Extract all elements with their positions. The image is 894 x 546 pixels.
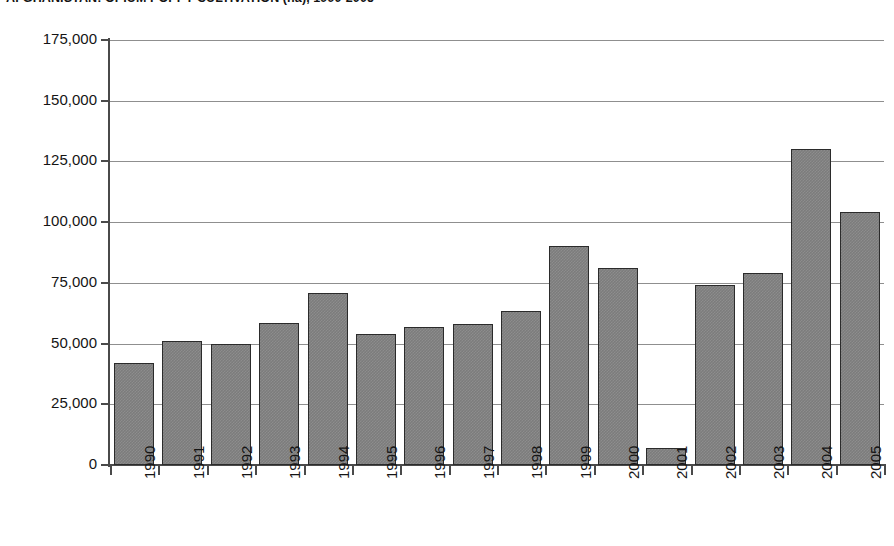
x-axis-label-1998: 1998: [528, 446, 545, 479]
x-axis-label-2002: 2002: [722, 446, 739, 479]
x-axis-label-1993: 1993: [286, 446, 303, 479]
x-axis-label-1996: 1996: [431, 446, 448, 479]
x-axis-label-1991: 1991: [190, 446, 207, 479]
x-axis-label-2004: 2004: [818, 446, 835, 479]
x-axis-label-2003: 2003: [770, 446, 787, 479]
chart-figure: AFGHANISTAN: OPIUM POPPY CULTIVATION (ha…: [0, 0, 894, 546]
x-axis-label-2001: 2001: [673, 446, 690, 479]
x-axis-label-1995: 1995: [383, 446, 400, 479]
x-axis-label-1999: 1999: [577, 446, 594, 479]
x-axis-label-1990: 1990: [141, 446, 158, 479]
x-axis-label-2000: 2000: [625, 446, 642, 479]
x-axis-label-1994: 1994: [335, 446, 352, 479]
x-axis-label-1992: 1992: [238, 446, 255, 479]
x-axis-label-2005: 2005: [867, 446, 884, 479]
x-axis-labels-group: 1990199119921993199419951996199719981999…: [0, 0, 894, 546]
x-axis-label-1997: 1997: [480, 446, 497, 479]
